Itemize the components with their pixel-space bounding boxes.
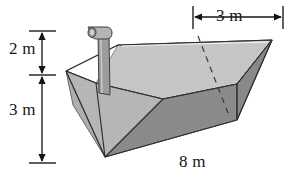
label-top-width: 3 m <box>216 6 243 26</box>
label-length: 8 m <box>179 152 206 172</box>
label-height-upper: 2 m <box>9 39 36 59</box>
trough-figure: 2 m 3 m 3 m 8 m <box>0 0 288 181</box>
label-height-lower: 3 m <box>9 100 36 120</box>
trough-drawing <box>0 0 288 181</box>
